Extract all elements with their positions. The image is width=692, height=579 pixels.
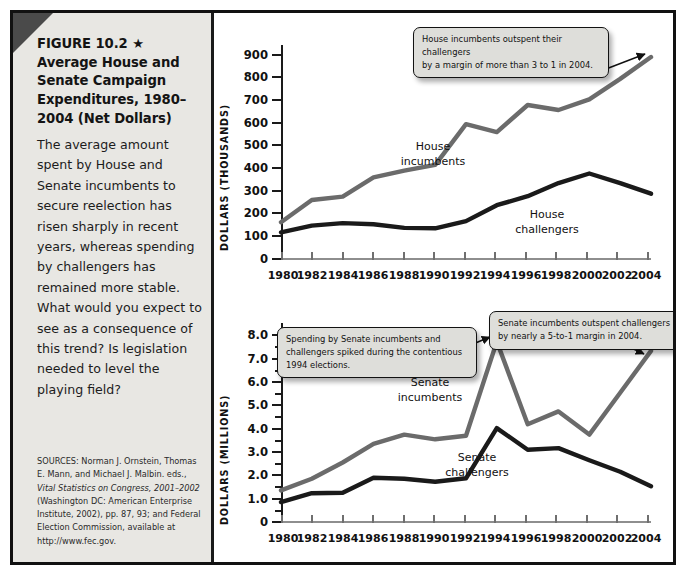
senate-ytick-label: 0 (260, 515, 268, 529)
senate-ytick-label: 7.0 (247, 352, 268, 366)
house-ytick-label: 600 (244, 116, 268, 130)
senate-xtick-label: 1994 (480, 532, 511, 545)
figure-title: FIGURE 10.2 ★ Average House and Senate C… (37, 35, 197, 129)
senate-challengers-label: Senate challengers (445, 451, 509, 480)
house-xtick-label: 1984 (328, 269, 359, 282)
house-xtick-label: 1992 (450, 269, 481, 282)
senate-xtick-label: 1996 (511, 532, 542, 545)
house-xtick-label: 1990 (419, 269, 450, 282)
chart-senate: DOLLARS (MILLIONS) 0 1.0 2.0 3.0 4.0 5.0… (217, 305, 673, 560)
house-ytick-label: 100 (244, 229, 268, 243)
senate-ytick-label: 6.0 (247, 375, 268, 389)
house-ytick-label: 300 (244, 184, 268, 198)
house-y-axis-label: DOLLARS (THOUSANDS) (219, 61, 230, 251)
callout-senate-2004: Senate incumbents outspent challengers b… (489, 311, 676, 350)
house-xtick-label: 1996 (511, 269, 542, 282)
figure-title-line: FIGURE 10.2 ★ (37, 35, 197, 54)
chart-house: DOLLARS (THOUSANDS) 0 100 200 300 400 50… (217, 19, 673, 297)
series-house-incumbents (281, 57, 651, 222)
senate-xtick-label: 1982 (297, 532, 328, 545)
senate-xtick-label: 1980 (268, 532, 299, 545)
house-xtick-label: 2002 (602, 269, 633, 282)
senate-xtick-label: 1984 (328, 532, 359, 545)
house-ytick-label: 0 (260, 252, 268, 266)
house-challengers-label: House challengers (515, 208, 579, 237)
house-ytick-label: 200 (244, 206, 268, 220)
figure-text-panel: FIGURE 10.2 ★ Average House and Senate C… (13, 13, 214, 562)
figure-container: FIGURE 10.2 ★ Average House and Senate C… (10, 10, 676, 565)
senate-xtick-label: 1998 (541, 532, 572, 545)
senate-xtick-label: 2002 (602, 532, 633, 545)
senate-incumbents-label: Senate incumbents (398, 376, 463, 405)
house-xtick-label: 1988 (389, 269, 420, 282)
house-ytick-label: 700 (244, 93, 268, 107)
callout-senate-1994: Spending by Senate incumbents and challe… (277, 327, 477, 378)
senate-y-axis-label: DOLLARS (MILLIONS) (219, 345, 230, 525)
senate-xtick-label: 2004 (631, 532, 662, 545)
house-xtick-label: 1982 (297, 269, 328, 282)
house-xtick-label: 1980 (268, 269, 299, 282)
callout-house-2004: House incumbents outspent their challeng… (413, 27, 609, 78)
house-xtick-label: 1994 (480, 269, 511, 282)
house-ytick-label: 800 (244, 70, 268, 84)
series-house-challengers (281, 174, 651, 233)
house-incumbents-label: House incumbents (401, 140, 466, 169)
figure-caption: The average amount spent by House and Se… (37, 135, 203, 400)
house-ytick-label: 900 (244, 48, 268, 62)
senate-ytick-label: 3.0 (247, 445, 268, 459)
house-xtick-label: 2004 (631, 269, 662, 282)
figure-title-line: Average House and (37, 54, 197, 73)
figure-title-line: Expenditures, 1980– (37, 91, 197, 110)
house-ytick-label: 500 (244, 138, 268, 152)
senate-xtick-label: 1988 (389, 532, 420, 545)
senate-xtick-label: 1986 (358, 532, 389, 545)
figure-title-line: Senate Campaign (37, 72, 197, 91)
house-xtick-label: 1998 (541, 269, 572, 282)
senate-xtick-label: 1992 (450, 532, 481, 545)
sources-text: SOURCES: Norman J. Ornstein, Thomas E. M… (37, 456, 201, 546)
senate-ytick-label: 8.0 (247, 328, 268, 342)
senate-ytick-label: 4.0 (247, 422, 268, 436)
senate-xtick-label: 1990 (419, 532, 450, 545)
figure-title-line: 2004 (Net Dollars) (37, 110, 197, 129)
senate-ytick-label: 1.0 (247, 492, 268, 506)
house-xtick-label: 2000 (572, 269, 603, 282)
senate-ytick-label: 2.0 (247, 468, 268, 482)
senate-ytick-label: 5.0 (247, 398, 268, 412)
house-ytick-label: 400 (244, 161, 268, 175)
figure-sources: SOURCES: Norman J. Ornstein, Thomas E. M… (37, 455, 201, 548)
senate-xtick-label: 2000 (572, 532, 603, 545)
house-xtick-label: 1986 (358, 269, 389, 282)
